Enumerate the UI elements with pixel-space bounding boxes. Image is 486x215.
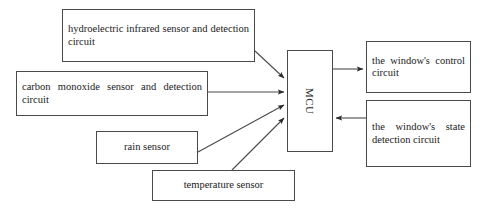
node-rain-sensor-label: rain sensor bbox=[97, 141, 197, 154]
node-hydroelectric-infrared-sensor-label: hydroelectric infrared sensor and detect… bbox=[63, 23, 254, 48]
node-carbon-monoxide-sensor[interactable]: carbon monoxide sensor and detection cir… bbox=[16, 71, 208, 116]
node-window-state-detection-circuit-label: the window's state detection circuit bbox=[367, 121, 470, 146]
edge-hydro-to-mcu bbox=[255, 51, 284, 78]
node-rain-sensor[interactable]: rain sensor bbox=[96, 131, 198, 164]
node-window-control-circuit[interactable]: the window's control circuit bbox=[366, 41, 471, 93]
node-window-state-detection-circuit[interactable]: the window's state detection circuit bbox=[366, 100, 471, 167]
node-temperature-sensor-label: temperature sensor bbox=[153, 179, 294, 192]
node-mcu-label: MCU bbox=[304, 88, 316, 115]
node-temperature-sensor[interactable]: temperature sensor bbox=[152, 170, 295, 201]
node-mcu[interactable]: MCU bbox=[287, 50, 333, 152]
edge-temp-to-mcu bbox=[232, 118, 284, 170]
node-window-control-circuit-label: the window's control circuit bbox=[367, 55, 470, 80]
edge-rain-to-mcu bbox=[198, 105, 284, 152]
node-hydroelectric-infrared-sensor[interactable]: hydroelectric infrared sensor and detect… bbox=[62, 9, 255, 62]
block-diagram: hydroelectric infrared sensor and detect… bbox=[0, 0, 486, 215]
node-carbon-monoxide-sensor-label: carbon monoxide sensor and detection cir… bbox=[17, 81, 207, 106]
